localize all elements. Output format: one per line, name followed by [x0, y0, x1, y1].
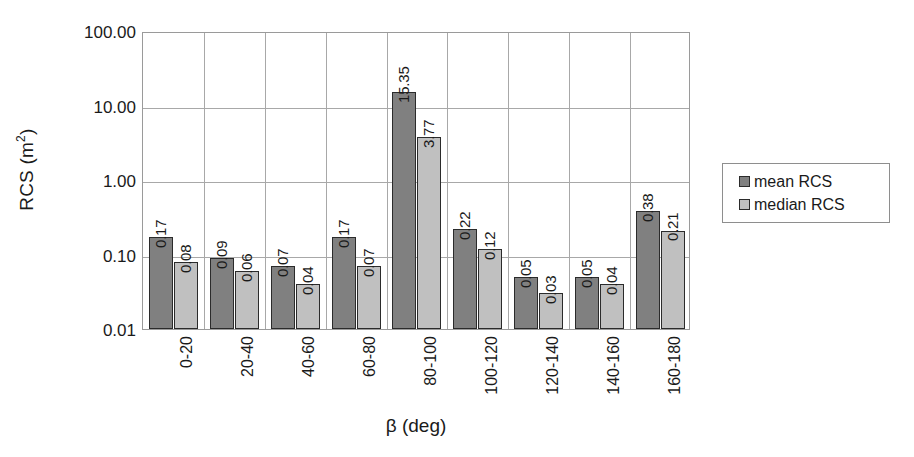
- bar-median-rcs: [478, 249, 502, 329]
- y-axis-title: RCS (m2): [14, 100, 37, 240]
- bar-group: 0.220.12: [447, 33, 508, 329]
- bar-mean-rcs: [453, 229, 477, 329]
- bar-group: 15.353.77: [387, 33, 448, 329]
- bar-value-label: 0.06: [239, 254, 254, 282]
- x-axis-tick-label: 40-60: [301, 336, 317, 377]
- legend-item: mean RCS: [739, 170, 889, 193]
- bar-value-label: 0.05: [579, 260, 594, 288]
- plot-area: 0.170.080.090.060.070.040.170.0715.353.7…: [142, 32, 690, 330]
- legend-item: median RCS: [739, 193, 889, 216]
- bar-mean-rcs: [636, 211, 660, 329]
- bar-median-rcs: [417, 137, 441, 329]
- bar-value-label: 0.07: [275, 249, 290, 277]
- y-axis-title-base: RCS (m: [16, 142, 37, 211]
- bar-value-label: 0.07: [361, 249, 376, 277]
- x-axis-title: β (deg): [142, 415, 690, 437]
- bar-value-label: 0.12: [482, 231, 497, 259]
- bar-value-label: 0.04: [300, 267, 315, 295]
- bar-value-label: 0.38: [640, 194, 655, 222]
- legend-label: median RCS: [754, 197, 845, 213]
- x-axis-tick-label: 120-140: [545, 336, 561, 395]
- bar-value-label: 3.77: [421, 120, 436, 148]
- x-axis-tick-label: 160-180: [667, 336, 683, 395]
- bar-group: 0.090.06: [204, 33, 265, 329]
- rcs-bar-chart: RCS (m2) 100.0010.001.000.100.01 0.170.0…: [0, 0, 914, 457]
- bar-mean-rcs: [392, 92, 416, 329]
- bar-value-label: 0.17: [336, 220, 351, 248]
- y-axis-tick-label: 100.00: [50, 24, 136, 41]
- bar-value-label: 15.35: [396, 66, 411, 103]
- y-axis-tick-label: 0.01: [50, 322, 136, 339]
- x-axis-tick-label: 140-160: [606, 336, 622, 395]
- y-axis-title-close: ): [16, 129, 37, 136]
- bar-group: 0.050.04: [569, 33, 630, 329]
- bar-value-label: 0.09: [214, 241, 229, 269]
- bar-value-label: 0.05: [518, 260, 533, 288]
- legend-label: mean RCS: [754, 174, 832, 190]
- x-axis-tick-label: 100-120: [484, 336, 500, 395]
- y-axis-tick-label: 10.00: [50, 98, 136, 115]
- bar-mean-rcs: [149, 237, 173, 329]
- y-axis-title-exponent: 2: [14, 135, 28, 142]
- y-axis-tick-label: 1.00: [50, 173, 136, 190]
- legend-swatch-median: [739, 199, 750, 210]
- bar-value-label: 0.03: [543, 276, 558, 304]
- y-axis-tick-label: 0.10: [50, 247, 136, 264]
- x-axis-tick-label: 20-40: [240, 336, 256, 377]
- y-axis-tick-labels: 100.0010.001.000.100.01: [48, 0, 136, 457]
- bar-value-label: 0.21: [665, 213, 680, 241]
- bar-group: 0.170.07: [326, 33, 387, 329]
- bar-group: 0.070.04: [265, 33, 326, 329]
- bar-median-rcs: [661, 231, 685, 330]
- bar-value-label: 0.22: [457, 212, 472, 240]
- x-axis-tick-label: 60-80: [362, 336, 378, 377]
- bar-value-label: 0.08: [178, 244, 193, 272]
- chart-legend: mean RCSmedian RCS: [722, 163, 890, 223]
- x-axis-tick-label: 80-100: [423, 336, 439, 386]
- bar-group: 0.050.03: [508, 33, 569, 329]
- legend-swatch-mean: [739, 176, 750, 187]
- bar-value-label: 0.17: [153, 220, 168, 248]
- bar-value-label: 0.04: [604, 267, 619, 295]
- bar-mean-rcs: [332, 237, 356, 329]
- bar-group: 0.380.21: [630, 33, 691, 329]
- bar-group: 0.170.08: [143, 33, 204, 329]
- x-axis-tick-label: 0-20: [179, 336, 195, 368]
